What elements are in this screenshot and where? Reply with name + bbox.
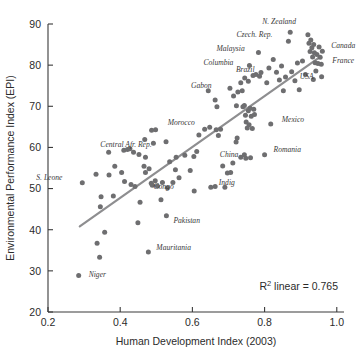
data-point [258,70,263,75]
data-point [138,200,143,205]
data-point [191,154,196,159]
data-point [147,166,152,171]
data-point-label: Mexico [281,115,305,124]
data-point-label: USA [300,72,314,81]
data-point [214,127,219,132]
data-point-labels-group: NigerMauritaniaPakistanS. LeoneCongoIndi… [36,17,355,279]
y-tick-label: 30 [29,265,41,277]
x-axis-title: Human Development Index (2003) [116,335,277,347]
data-point [112,164,117,169]
data-point [251,107,256,112]
data-point [80,180,85,185]
data-point [318,55,323,60]
data-point [202,127,207,132]
data-point [281,88,286,93]
x-tick-label: 0.8 [257,316,272,328]
data-point-label: Congo [153,182,173,191]
data-point [266,66,271,71]
data-point [292,78,297,83]
data-point [286,39,291,44]
data-point [274,70,279,75]
data-point [182,153,187,158]
data-point [242,103,247,108]
data-point [97,255,102,260]
data-point-label: Columbia [203,58,233,67]
data-point [220,163,225,168]
data-point [102,230,107,235]
data-point [235,135,240,140]
data-point [277,77,282,82]
data-point [174,155,179,160]
data-point [240,88,245,93]
data-point [131,150,136,155]
x-tick-label: 1.0 [329,316,344,328]
data-point [214,104,219,109]
data-point [252,112,257,117]
data-point [235,89,240,94]
data-point [243,113,248,118]
y-tick-label: 90 [29,18,41,30]
y-tick-label: 60 [29,141,41,153]
data-point [319,62,324,67]
data-point-label: China [220,150,239,159]
data-point [227,86,232,91]
scatter-chart: 2030405060708090 0.20.40.60.81.0 NigerMa… [0,0,361,360]
data-point [308,38,313,43]
data-point [262,152,267,157]
data-point [218,127,223,132]
y-tick-label: 50 [29,182,41,194]
data-point [248,155,253,160]
chart-axes [48,24,344,312]
data-point [231,94,236,99]
data-point [311,42,316,47]
data-point [313,68,318,73]
data-point [76,273,81,278]
data-point-label: Canada [331,41,355,50]
data-point-label: Pakistan [172,216,200,225]
y-axis-title: Environmental Performance Index (EPI) [4,75,16,261]
data-point [94,172,99,177]
data-point [188,168,193,173]
x-tick-label: 0.4 [113,316,128,328]
data-point [300,59,305,64]
figure-container: 2030405060708090 0.20.40.60.81.0 NigerMa… [0,0,361,360]
data-point [234,103,239,108]
data-point [271,57,276,62]
data-point [107,172,112,177]
data-point [268,121,273,126]
data-point [196,133,201,138]
data-point [288,30,293,35]
data-point [243,156,248,161]
data-point [99,194,104,199]
data-point [135,220,140,225]
data-point [208,185,213,190]
data-point [153,127,158,132]
x-tick-label: 0.6 [185,316,200,328]
data-point [242,75,247,80]
data-point [295,61,300,66]
data-point [283,75,288,80]
data-point [256,50,261,55]
data-point [122,179,127,184]
data-point [289,69,294,74]
data-point [297,87,302,92]
data-point [136,152,141,157]
data-point-label: Romania [273,145,302,154]
data-point-label: Morocco [167,118,195,127]
data-point [98,204,103,209]
data-point [317,45,322,50]
data-point [320,49,325,54]
data-point [164,213,169,218]
data-point-label: Indig [218,178,235,187]
data-point [305,32,310,37]
data-point-label: N. Zealand [261,17,296,26]
data-point-label: Central Afr. Rep. [100,140,151,149]
data-point [238,80,243,85]
data-point [177,175,182,180]
data-point [194,149,199,154]
data-point [279,63,284,68]
data-point [173,167,178,172]
x-axis-ticks: 0.20.40.60.81.0 [41,307,345,328]
data-point-label: Malaysia [215,44,244,53]
data-point [167,159,172,164]
